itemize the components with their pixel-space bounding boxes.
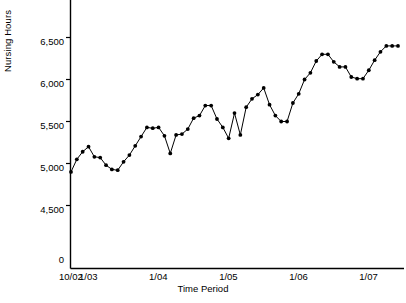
x-tick-label-2: 1/03 — [79, 272, 98, 282]
plot-area — [0, 0, 406, 303]
x-tick-label-5: 1/06 — [289, 272, 308, 282]
axis-lines — [71, 0, 405, 269]
x-tick-label-6: 1/07 — [359, 272, 378, 282]
x-tick-label-4: 1/05 — [219, 272, 238, 282]
data-line — [71, 46, 398, 172]
nursing-hours-line-chart: Nursing Hours 6,500 6,000 5,500 5,000 4,… — [0, 0, 406, 303]
x-axis-title: Time Period — [0, 283, 406, 294]
data-markers — [69, 44, 400, 174]
x-tick-label-3: 1/04 — [149, 272, 168, 282]
